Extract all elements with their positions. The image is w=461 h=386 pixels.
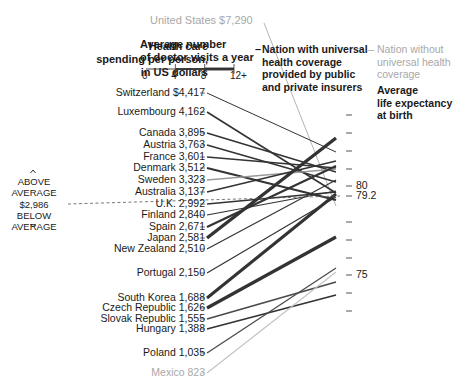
visits-tick-label: 4 (171, 70, 177, 81)
average-value-note: $2,986 (2, 199, 66, 210)
country-label: Portugal 2,150 (137, 266, 205, 278)
right-axis-tick-label: 75 (356, 268, 368, 280)
life-expectancy-header: Average life expectancy at birth (377, 84, 461, 122)
life-header-line2: life expectancy (377, 97, 461, 110)
life-header-line3: at birth (377, 109, 461, 122)
country-label: Luxembourg 4,162 (117, 105, 205, 117)
country-line (207, 93, 336, 152)
visits-tick-label: 12+ (230, 70, 247, 81)
universal-legend-line2: health coverage (262, 56, 370, 69)
non-universal-coverage-legend: Nation without universal health coverage (377, 43, 461, 81)
right-axis-tick-label: 79.2 (356, 189, 376, 201)
life-header-line1: Average (377, 84, 461, 97)
above-average-note: ABOVE AVERAGE (2, 176, 66, 198)
universal-legend-line3: provided by public (262, 68, 370, 81)
universal-coverage-swatch: – (255, 43, 261, 55)
universal-legend-line1: Nation with universal (262, 43, 370, 56)
country-label: Switzerland $4,417 (116, 86, 205, 98)
non-universal-legend-line2: universal health (377, 56, 461, 69)
visits-tick-label: 8 (201, 70, 207, 81)
universal-legend-line4: and private insurers (262, 81, 370, 94)
country-line (207, 272, 336, 373)
country-label: New Zealand 2,510 (114, 242, 205, 254)
above-average-line1: ABOVE (2, 176, 66, 187)
visits-tick-label: 0 (142, 70, 148, 81)
doctor-visits-header: Average number of doctor visits a year (140, 38, 260, 64)
us-callout-label: United States $7,290 (150, 14, 253, 26)
non-universal-coverage-swatch: – (368, 43, 374, 55)
universal-coverage-legend: Nation with universal health coverage pr… (262, 43, 370, 93)
visits-header-line1: Average number (140, 38, 260, 51)
country-label: Sweden 3,323 (138, 173, 205, 185)
visits-width-legend (140, 62, 240, 82)
above-average-caret-icon (31, 170, 36, 173)
country-label: Hungary 1,388 (136, 322, 205, 334)
country-label: Mexico 823 (151, 366, 205, 378)
below-average-line1: BELOW (2, 210, 66, 221)
above-average-line2: AVERAGE (2, 187, 66, 198)
country-line (207, 180, 336, 249)
country-label: Denmark 3,512 (133, 161, 205, 173)
country-label: Canada 3,895 (139, 126, 205, 138)
country-label: Finland 2,840 (141, 208, 205, 220)
below-average-note: BELOW AVERAGE (2, 210, 66, 232)
country-label: Australia 3,137 (135, 185, 205, 197)
below-average-line2: AVERAGE (2, 221, 66, 232)
non-universal-legend-line3: coverage (377, 68, 461, 81)
country-label: Poland 1,035 (143, 346, 205, 358)
non-universal-legend-line1: Nation without (377, 43, 461, 56)
country-label: Austria 3,763 (143, 138, 205, 150)
